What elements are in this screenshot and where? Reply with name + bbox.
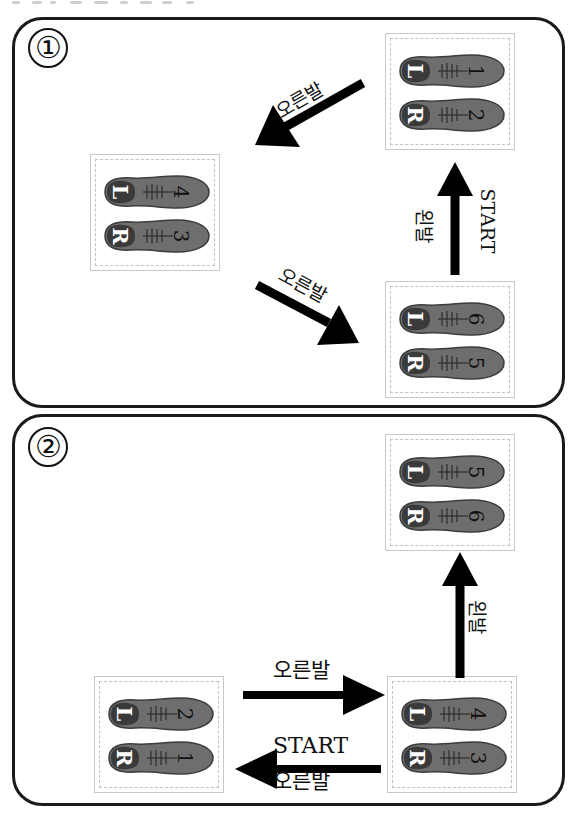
diagram-panel-1: ① L 1 R 2 L 4 R 3 L: [12, 17, 565, 408]
start-label: START: [477, 188, 499, 253]
foot-letter: R: [109, 744, 139, 772]
shoe-card-steps-1-2: L 1 R 2: [385, 33, 515, 150]
left-shoe: L 6: [396, 300, 506, 338]
step-number: 4: [464, 704, 492, 724]
cropped-caption: [10, 0, 200, 6]
left-shoe: L 1: [396, 52, 506, 90]
right-shoe: R 1: [105, 739, 215, 777]
step-number: 5: [462, 462, 490, 482]
right-shoe: R 3: [398, 739, 508, 777]
arrow-label-left-foot: 왼발: [465, 600, 492, 634]
left-shoe: L 4: [398, 695, 508, 733]
right-shoe: R 6: [396, 497, 506, 535]
step-number: 3: [167, 226, 195, 246]
step-number: 1: [462, 61, 490, 81]
panel-number: ①: [28, 28, 68, 68]
right-shoe: R 5: [396, 344, 506, 382]
step-number: 4: [167, 182, 195, 202]
arrow-right-icon: [243, 673, 388, 717]
foot-letter: R: [402, 744, 432, 772]
foot-letter: R: [400, 349, 430, 377]
shoe-card-steps-1-2: L 2 R 1: [94, 676, 224, 793]
step-number: 2: [171, 704, 199, 724]
foot-letter: L: [109, 700, 139, 728]
shoe-card-steps-3-4: L 4 R 3: [90, 154, 220, 271]
foot-letter: L: [400, 57, 430, 85]
right-shoe: R 3: [101, 217, 211, 255]
foot-letter: L: [400, 305, 430, 333]
arrow-label-right-foot: 오른발: [273, 764, 330, 794]
step-number: 2: [462, 105, 490, 125]
shoe-card-steps-3-4: L 4 R 3: [387, 676, 517, 793]
arrow-label-left-foot: 왼발: [412, 209, 439, 243]
step-number: 1: [171, 748, 199, 768]
step-number: 5: [462, 353, 490, 373]
left-shoe: L 5: [396, 453, 506, 491]
arrow-up-icon: [435, 160, 475, 280]
panel-number: ②: [28, 427, 68, 467]
step-number: 6: [462, 309, 490, 329]
step-number: 6: [462, 506, 490, 526]
foot-letter: L: [402, 700, 432, 728]
foot-letter: L: [400, 458, 430, 486]
foot-letter: L: [105, 178, 135, 206]
shoe-card-steps-5-6: L 6 R 5: [385, 281, 515, 398]
foot-letter: R: [105, 222, 135, 250]
diagram-panel-2: ② L 5 R 6 L 2 R 1 L: [12, 414, 565, 806]
left-shoe: L 4: [101, 173, 211, 211]
foot-letter: R: [400, 101, 430, 129]
shoe-card-steps-5-6: L 5 R 6: [385, 434, 515, 551]
right-shoe: R 2: [396, 96, 506, 134]
left-shoe: L 2: [105, 695, 215, 733]
foot-letter: R: [400, 502, 430, 530]
step-number: 3: [464, 748, 492, 768]
